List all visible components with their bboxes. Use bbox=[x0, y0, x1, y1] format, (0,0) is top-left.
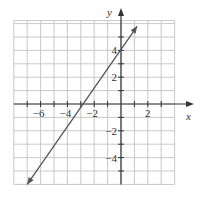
arrowhead-top-icon bbox=[131, 26, 137, 33]
x-tick-label: −2 bbox=[86, 107, 98, 119]
y-axis-arrow-icon bbox=[118, 8, 124, 16]
y-axis-label: y bbox=[106, 6, 112, 18]
y-tick-label: −4 bbox=[105, 152, 117, 164]
coordinate-plane: −6−4−2242−2−4 x y bbox=[0, 0, 204, 197]
x-tick-label: −6 bbox=[33, 107, 45, 119]
x-axis-label: x bbox=[185, 110, 191, 122]
y-tick-label: 2 bbox=[112, 71, 118, 83]
x-axis-arrow-icon bbox=[186, 101, 194, 107]
x-tick-label: −4 bbox=[60, 107, 72, 119]
y-tick-label: 4 bbox=[112, 44, 118, 56]
arrowhead-bottom-icon bbox=[27, 177, 33, 184]
y-tick-label: −2 bbox=[105, 125, 117, 137]
x-tick-label: 2 bbox=[145, 107, 151, 119]
